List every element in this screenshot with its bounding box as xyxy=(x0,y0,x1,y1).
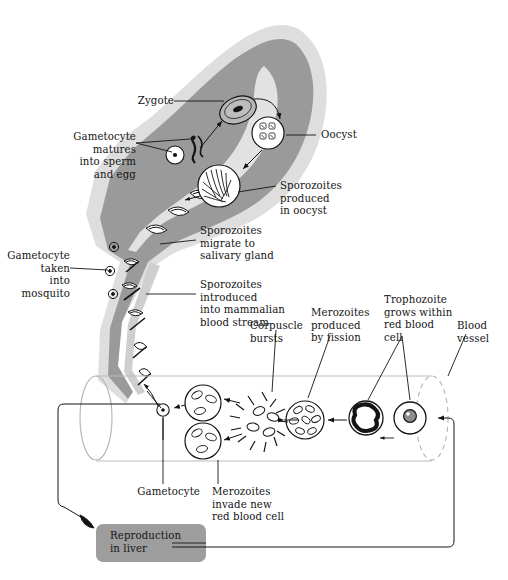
arrow-burst-to-rbc-lower xyxy=(224,434,242,440)
label-sporozoites-migrate-to-salivary-gland: Sporozoites migrate to salivary gland xyxy=(200,225,274,263)
malaria-life-cycle-figure: Zygote Gametocyte matures into sperm and… xyxy=(0,0,508,580)
path-left-loop-to-liver xyxy=(58,404,160,520)
label-blood-vessel: Blood vessel xyxy=(457,320,489,345)
arrow-gametocyte-into-proboscis xyxy=(144,384,158,406)
leader-trophozoite-a xyxy=(368,336,402,400)
burst-rays xyxy=(230,392,288,452)
label-gametocyte-blood: Gametocyte xyxy=(118,486,200,499)
corpuscle-bursting xyxy=(230,392,288,452)
oocyst-cell xyxy=(252,117,284,149)
leader-merozoites-produced xyxy=(308,336,330,398)
leader-trophozoite-b xyxy=(402,336,410,400)
label-merozoites-invade-new-rbc: Merozoites invade new red blood cell xyxy=(212,486,284,524)
label-sporozoites-produced-in-oocyst: Sporozoites produced in oocyst xyxy=(280,180,342,218)
label-merozoites-produced-by-fission: Merozoites produced by fission xyxy=(311,307,370,345)
sporozoite-entering-liver xyxy=(80,515,94,528)
red-blood-cell-with-ring-trophozoite xyxy=(394,402,426,434)
vessel-left-opening xyxy=(80,376,112,460)
sporozoite-ball xyxy=(198,165,240,207)
red-blood-cell-newly-invaded-lower xyxy=(185,423,221,459)
arrow-burst-to-rbc-upper xyxy=(224,399,240,403)
arrow-proboscis-injects-blood xyxy=(147,391,161,408)
label-reproduction-in-liver: Reproduction in liver xyxy=(110,530,181,555)
released-merozoites xyxy=(246,405,280,438)
label-zygote: Zygote xyxy=(98,95,174,108)
gametocyte-cell xyxy=(105,266,114,275)
label-oocyst: Oocyst xyxy=(321,129,357,142)
arrow-rbc-to-gametocyte xyxy=(174,405,185,408)
leader-gametocyte-taken xyxy=(70,268,108,270)
gametocyte-maturing-cell xyxy=(166,146,184,164)
label-gametocyte-taken-into-mosquito: Gametocyte taken into mosquito xyxy=(0,250,70,300)
label-corpuscle-bursts: Corpuscle bursts xyxy=(250,320,303,345)
label-gametocyte-matures: Gametocyte matures into sperm and egg xyxy=(36,131,136,181)
red-blood-cell-with-grown-trophozoite xyxy=(349,401,383,435)
red-blood-cell-newly-invaded-upper xyxy=(185,385,221,421)
label-trophozoite-grows-within-rbc: Trophozoite grows within red blood cell xyxy=(384,294,452,344)
